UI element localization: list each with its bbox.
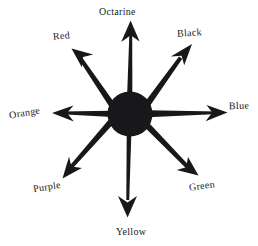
arrow-blue <box>148 105 228 121</box>
radial-arrow-diagram <box>0 0 258 246</box>
label-yellow: Yellow <box>116 227 146 237</box>
arrow-red <box>72 49 118 112</box>
arrow-black <box>142 44 193 111</box>
arrow-black-head <box>171 44 192 65</box>
arrow-purple-shaft <box>70 117 117 169</box>
arrow-blue-shaft <box>148 110 218 117</box>
arrow-orange-shaft <box>62 111 112 117</box>
label-red: Red <box>53 30 71 42</box>
label-black: Black <box>177 27 202 39</box>
arrow-purple <box>63 117 117 179</box>
center-hub-texture <box>108 92 150 134</box>
label-octarine: Octarine <box>99 7 136 17</box>
arrow-orange <box>52 106 112 122</box>
arrow-green <box>141 120 198 176</box>
diagram-canvas: Octarine Black Blue Green Yellow Purple … <box>0 0 258 246</box>
label-blue: Blue <box>229 101 249 112</box>
